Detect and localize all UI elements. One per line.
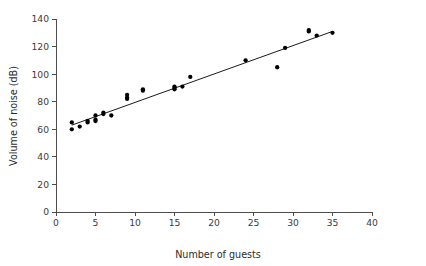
x-axis: 0510152025303540 xyxy=(53,212,378,228)
x-tick-label: 10 xyxy=(129,217,141,228)
y-tick-label: 120 xyxy=(31,41,49,52)
x-tick-label: 20 xyxy=(208,217,220,228)
data-point-marker xyxy=(109,113,113,117)
data-point-marker xyxy=(70,120,74,124)
plot-canvas: 020406080100120140 0510152025303540 Numb… xyxy=(0,0,426,266)
x-tick-label: 5 xyxy=(93,217,99,228)
x-tick-label: 30 xyxy=(287,217,299,228)
y-axis: 020406080100120140 xyxy=(31,13,56,217)
x-tick-label: 40 xyxy=(366,217,378,228)
x-tick-label: 35 xyxy=(327,217,339,228)
data-point-marker xyxy=(101,111,105,115)
regression-line xyxy=(72,31,333,125)
y-tick-label: 80 xyxy=(37,96,49,107)
data-points xyxy=(70,28,335,132)
data-point-marker xyxy=(180,84,184,88)
scatter-plot-figure: 020406080100120140 0510152025303540 Numb… xyxy=(0,0,426,266)
data-point-marker xyxy=(78,124,82,128)
data-point-marker xyxy=(125,93,129,97)
data-point-marker xyxy=(315,33,319,37)
trend-line xyxy=(72,31,333,125)
x-tick-label: 25 xyxy=(248,217,260,228)
data-point-marker xyxy=(243,58,247,62)
data-point-marker xyxy=(70,127,74,131)
y-tick-label: 60 xyxy=(37,124,49,135)
y-tick-label: 0 xyxy=(43,206,49,217)
data-point-marker xyxy=(93,113,97,117)
y-tick-label: 40 xyxy=(37,151,49,162)
data-point-marker xyxy=(283,46,287,50)
data-point-marker xyxy=(85,119,89,123)
x-tick-label: 15 xyxy=(169,217,181,228)
x-axis-title: Number of guests xyxy=(175,249,261,260)
data-point-marker xyxy=(188,75,192,79)
y-tick-label: 100 xyxy=(31,69,49,80)
y-axis-title: Volume of noise (dB) xyxy=(8,66,19,166)
data-point-marker xyxy=(275,65,279,69)
x-tick-label: 0 xyxy=(53,217,59,228)
data-point-marker xyxy=(330,31,334,35)
data-point-marker xyxy=(307,28,311,32)
y-tick-label: 20 xyxy=(37,179,49,190)
data-point-marker xyxy=(93,117,97,121)
y-tick-label: 140 xyxy=(31,13,49,24)
data-point-marker xyxy=(141,87,145,91)
data-point-marker xyxy=(172,84,176,88)
